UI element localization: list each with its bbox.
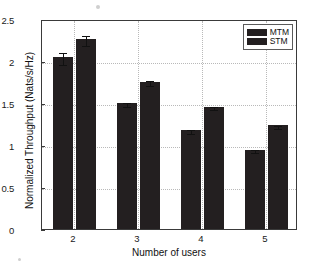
x-tick-label-2: 2 [70,233,75,244]
x-tick-label-3: 3 [134,233,139,244]
figure: Normalized Throughput (Nats/s/Hz) Number… [0,0,312,267]
error-bar-stm-users-2 [86,36,87,46]
scan-artifact [96,5,100,9]
legend-swatch-mtm [247,29,267,36]
legend-item-stm: STM [247,37,289,46]
error-cap-lower [59,65,67,66]
bar-stm-users-2 [76,39,96,229]
y-tick-mark [41,230,45,231]
bar-stm-users-4 [204,107,224,229]
y-tick-label-0: 0 [9,225,14,236]
error-cap-upper [123,103,131,104]
legend-label-stm: STM [270,37,288,46]
error-cap-lower [210,110,218,111]
bar-mtm-users-3 [117,103,137,229]
error-cap-lower [274,129,282,130]
error-cap-lower [82,46,90,47]
error-cap-upper [59,53,67,54]
error-cap-lower [123,107,131,108]
x-tick-label-4: 4 [198,233,203,244]
legend-swatch-stm [247,38,267,45]
bar-stm-users-5 [268,125,288,229]
bar-mtm-users-5 [245,150,265,229]
y-tick-label-0.5: 0.5 [1,183,14,194]
error-cap-lower [187,134,195,135]
y-tick-label-1.5: 1.5 [1,99,14,110]
plot-area: MTM STM [41,20,297,230]
y-tick-label-2: 2 [9,57,14,68]
bar-stm-users-3 [140,82,160,229]
error-cap-lower [251,153,259,154]
error-cap-lower [146,86,154,87]
x-axis-label: Number of users [41,247,297,258]
bar-mtm-users-4 [181,130,201,229]
y-tick-label-2.5: 2.5 [1,15,14,26]
y-tick-mark [41,20,45,21]
bar-mtm-users-2 [53,57,73,229]
y-tick-mark [41,104,45,105]
scan-artifact [18,258,21,261]
plot-inner [42,21,296,229]
legend: MTM STM [243,24,293,50]
y-axis-label: Normalized Throughput (Nats/s/Hz) [24,26,35,236]
error-cap-upper [187,130,195,131]
x-tick-label-5: 5 [262,233,267,244]
y-tick-mark [41,188,45,189]
y-tick-mark [41,62,45,63]
y-tick-mark [41,146,45,147]
error-cap-upper [146,81,154,82]
error-cap-upper [82,36,90,37]
error-cap-upper [210,107,218,108]
error-cap-upper [251,150,259,151]
error-cap-upper [274,126,282,127]
y-tick-label-1: 1 [9,141,14,152]
error-bar-mtm-users-2 [63,53,64,65]
